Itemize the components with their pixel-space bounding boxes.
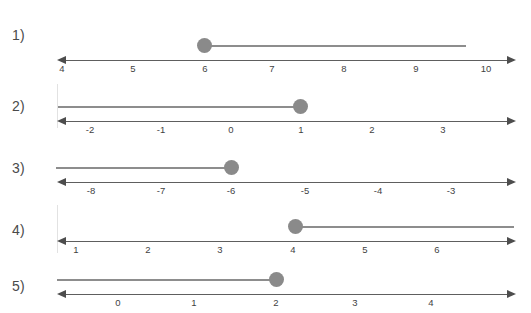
tick-label: 8 — [341, 63, 346, 74]
tick-label: 1 — [298, 124, 303, 135]
tick-label: 6 — [202, 63, 207, 74]
tick-label: 7 — [269, 63, 274, 74]
tick-label: 3 — [440, 124, 445, 135]
problem-2: 2) -2 -1 0 1 2 3 — [0, 84, 531, 132]
tick-label: 4 — [428, 297, 433, 308]
axis-line-2 — [62, 121, 514, 122]
axis-arrow-right-3 — [507, 178, 516, 186]
axis-line-5 — [62, 294, 514, 295]
worksheet-canvas: 1) 4 5 6 7 8 9 10 2) -2 -1 0 1 2 3 3) — [0, 0, 531, 313]
tick-label: 1 — [191, 297, 196, 308]
axis-arrow-left-2 — [57, 117, 66, 125]
problem-number-5: 5) — [12, 278, 25, 294]
axis-arrow-left-4 — [57, 237, 66, 245]
tick-label: 2 — [369, 124, 374, 135]
tick-label: 1 — [73, 244, 78, 255]
problem-4: 4) 1 2 3 4 5 6 — [0, 205, 531, 255]
tick-label: -3 — [447, 185, 455, 196]
problem-number-3: 3) — [12, 160, 25, 176]
axis-line-1 — [62, 60, 514, 61]
endpoint-dot-1 — [197, 38, 212, 53]
axis-line-3 — [62, 182, 514, 183]
axis-arrow-right-5 — [507, 290, 516, 298]
problem-number-4: 4) — [12, 222, 25, 238]
tick-label: -1 — [157, 124, 165, 135]
tick-label: -4 — [374, 185, 382, 196]
tick-label: 2 — [145, 244, 150, 255]
solution-ray-4 — [296, 226, 514, 228]
tick-label: 9 — [413, 63, 418, 74]
solution-ray-5 — [57, 279, 276, 281]
tick-label: 0 — [115, 297, 120, 308]
tick-label: -8 — [87, 185, 95, 196]
problem-number-1: 1) — [12, 27, 25, 43]
tick-label: 3 — [217, 244, 222, 255]
endpoint-dot-4 — [288, 219, 303, 234]
tick-label: -6 — [227, 185, 235, 196]
tick-label: 3 — [352, 297, 357, 308]
tick-label: 5 — [130, 63, 135, 74]
axis-arrow-right-2 — [507, 117, 516, 125]
tick-label: -5 — [301, 185, 309, 196]
tick-label: -2 — [86, 124, 94, 135]
axis-arrow-right-1 — [507, 56, 516, 64]
solution-ray-1 — [204, 45, 466, 47]
tick-label: 5 — [362, 244, 367, 255]
tick-label: 4 — [290, 244, 295, 255]
solution-ray-2 — [58, 106, 303, 108]
axis-arrow-left-5 — [57, 290, 66, 298]
tick-label: 10 — [481, 63, 492, 74]
solution-ray-3 — [56, 167, 234, 169]
tick-label: 4 — [59, 63, 64, 74]
endpoint-dot-2 — [293, 99, 308, 114]
problem-number-2: 2) — [12, 98, 25, 114]
scan-artifact — [57, 205, 58, 253]
problem-5: 5) 0 1 2 3 4 — [0, 261, 531, 309]
axis-line-4 — [62, 241, 514, 242]
axis-arrow-right-4 — [507, 237, 516, 245]
endpoint-dot-5 — [269, 272, 284, 287]
tick-label: 6 — [434, 244, 439, 255]
problem-1: 1) 4 5 6 7 8 9 10 — [0, 18, 531, 66]
problem-3: 3) -8 -7 -6 -5 -4 -3 — [0, 146, 531, 194]
tick-label: 0 — [228, 124, 233, 135]
tick-label: -7 — [157, 185, 165, 196]
axis-arrow-left-3 — [57, 178, 66, 186]
endpoint-dot-3 — [224, 160, 239, 175]
tick-label: 2 — [273, 297, 278, 308]
